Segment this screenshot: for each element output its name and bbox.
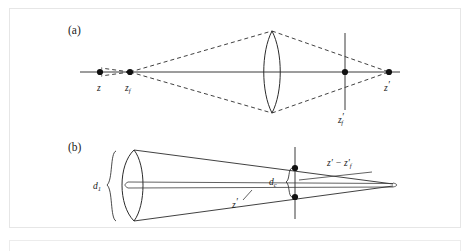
sensor-plane-point [342, 69, 348, 75]
inner-beam-left-cap [125, 182, 128, 188]
panel-b: (b) d1 [68, 141, 397, 221]
figure-page: (a) [0, 0, 473, 251]
dc-brace [286, 168, 292, 197]
ray-upper-incident [130, 31, 272, 72]
ray-upper-refracted [272, 31, 389, 72]
cone-lower-edge [134, 186, 393, 221]
dc-brace-path [286, 168, 292, 197]
focus-point-zf [127, 69, 133, 75]
ray-back-upper [101, 68, 130, 72]
aperture-right-surface [134, 150, 143, 221]
inner-beam [125, 182, 393, 188]
label-dc: dc [269, 177, 277, 188]
d1-brace-path [107, 151, 116, 221]
label-z-f: zf [124, 83, 132, 94]
label-z-prime: z′ [383, 80, 391, 93]
blur-point-bottom [292, 194, 298, 200]
cone-upper-edge [134, 150, 393, 184]
label-z: z [96, 83, 101, 93]
aperture-left-surface [122, 150, 134, 221]
label-d1: d1 [93, 181, 101, 192]
cone-apex-cap [393, 183, 397, 187]
defocus-cone-outer [134, 150, 393, 221]
label-z-prime-minus-z-prime-f: z′ − z′f [326, 158, 353, 169]
panel-b-label: (b) [68, 141, 82, 154]
ray-lower-refracted [272, 72, 389, 113]
panel-a-label: (a) [68, 24, 81, 37]
optics-diagram: (a) [0, 0, 473, 251]
d1-brace [107, 151, 116, 221]
image-point-z-prime [386, 69, 392, 75]
inner-label-leader [243, 190, 252, 200]
panel-a: (a) [68, 24, 400, 126]
inner-beam-upper [128, 182, 393, 184]
blur-point-top [292, 165, 298, 171]
ray-back-lower [101, 72, 130, 76]
object-point-z [97, 69, 103, 75]
inner-beam-lower [128, 187, 393, 188]
label-inner-z-prime: z′ [231, 197, 239, 210]
ray-lower-incident [130, 72, 272, 113]
label-z-prime-f: z′f [337, 112, 345, 126]
